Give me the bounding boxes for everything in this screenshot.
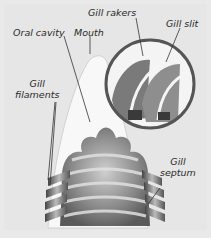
label-gill-septum-line2: septum xyxy=(160,167,196,178)
label-gill-filaments-line1: Gill xyxy=(15,78,59,89)
label-gill-septum-line1: Gill xyxy=(160,156,196,167)
label-mouth: Mouth xyxy=(74,27,104,38)
label-gill-rakers: Gill rakers xyxy=(88,7,136,18)
label-gill-filaments: Gill filaments xyxy=(15,78,59,100)
diagram-canvas: Gill rakers Gill slit Oral cavity Mouth … xyxy=(0,0,211,238)
label-gill-septum: Gill septum xyxy=(160,156,196,178)
label-gill-filaments-line2: filaments xyxy=(15,89,59,100)
gill-closeup-inset xyxy=(106,40,194,128)
label-gill-slit: Gill slit xyxy=(166,18,198,29)
label-oral-cavity: Oral cavity xyxy=(13,27,65,38)
